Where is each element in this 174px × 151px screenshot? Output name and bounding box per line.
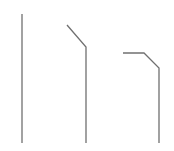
single-bend-line — [67, 25, 86, 143]
double-bend-line — [123, 53, 159, 143]
line-diagram — [0, 0, 174, 151]
